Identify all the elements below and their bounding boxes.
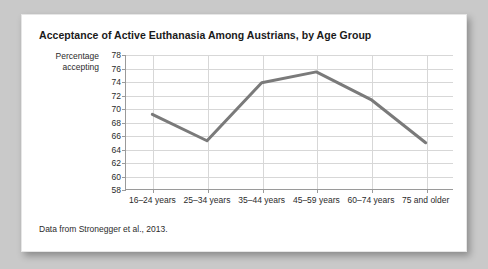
y-axis-tick-label: 66 <box>112 131 121 141</box>
y-axis-tick-label: 70 <box>112 104 121 114</box>
figure-title: Acceptance of Active Euthanasia Among Au… <box>39 29 371 41</box>
data-line <box>152 72 425 143</box>
y-axis-tick-label: 62 <box>112 158 121 168</box>
y-axis-title: Percentage accepting <box>39 51 99 73</box>
x-axis-tick-label: 25–34 years <box>184 195 231 205</box>
y-axis-tick-label: 78 <box>112 50 121 60</box>
y-axis-title-line1: Percentage <box>56 51 99 61</box>
y-axis-tick-label: 68 <box>112 118 121 128</box>
y-axis-tick-labels: 7876747270686664626058 <box>101 55 121 190</box>
chart-area: Percentage accepting 7876747270686664626… <box>39 49 453 209</box>
plot-wrapper <box>125 55 453 190</box>
y-axis-tick-label: 72 <box>112 91 121 101</box>
x-axis-tick-label: 75 and older <box>402 195 449 205</box>
x-axis-tick-label: 35–44 years <box>238 195 285 205</box>
y-axis-tick-mark <box>122 190 126 191</box>
figure-card: Acceptance of Active Euthanasia Among Au… <box>21 14 467 252</box>
y-axis-tick-label: 58 <box>112 185 121 195</box>
y-axis-tick-label: 76 <box>112 64 121 74</box>
y-axis-tick-label: 60 <box>112 172 121 182</box>
y-axis-tick-label: 64 <box>112 145 121 155</box>
x-axis-tick-label: 16–24 years <box>129 195 176 205</box>
source-note: Data from Stronegger et al., 2013. <box>39 224 168 234</box>
x-axis-tick-label: 60–74 years <box>348 195 395 205</box>
x-axis-tick-labels: 16–24 years25–34 years35–44 years45–59 y… <box>125 195 453 209</box>
line-series <box>125 55 453 190</box>
y-axis-title-line2: accepting <box>63 62 99 72</box>
x-axis-tick-label: 45–59 years <box>293 195 340 205</box>
y-axis-tick-label: 74 <box>112 77 121 87</box>
